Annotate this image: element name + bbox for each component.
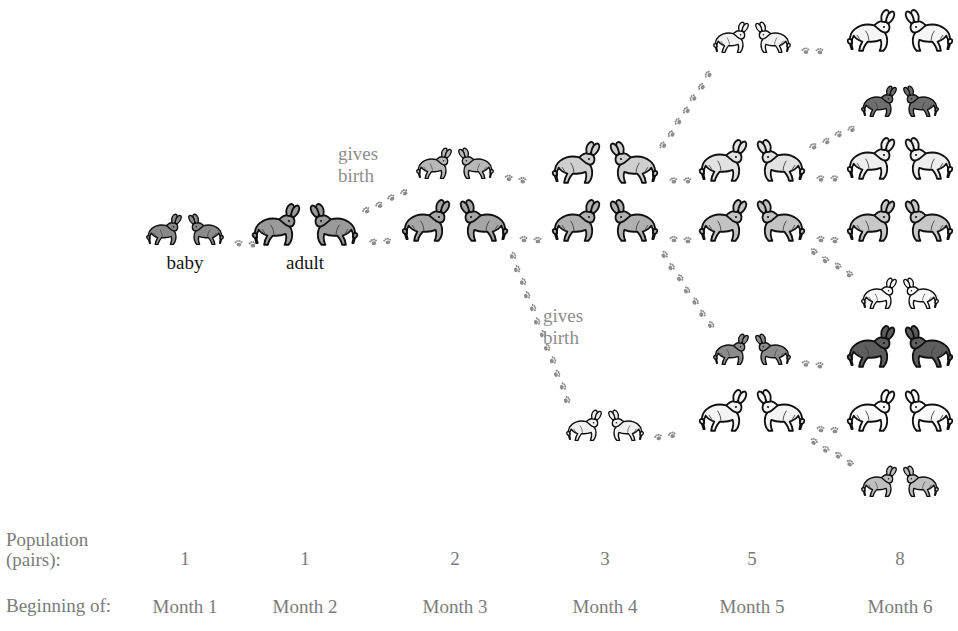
rabbit-left — [414, 146, 454, 186]
rabbit-left — [844, 197, 898, 251]
rabbit-left — [249, 201, 303, 255]
rabbit-right — [307, 201, 361, 255]
rabbit-right — [754, 137, 808, 191]
month-label-1: Month 1 — [125, 596, 245, 618]
growth-trail — [812, 235, 840, 245]
growth-trail — [364, 235, 395, 249]
population-axis-label: Population (pairs): — [6, 530, 88, 570]
rabbit-right — [902, 7, 956, 61]
rabbit-pair-baby — [859, 464, 941, 504]
growth-trail — [812, 425, 840, 435]
rabbit-left — [844, 7, 898, 61]
month-label-6: Month 6 — [840, 596, 958, 618]
rabbit-left — [844, 135, 898, 189]
rabbit-left — [564, 408, 604, 448]
rabbit-pair-adult — [844, 197, 956, 251]
population-axis-line1: Population — [6, 530, 88, 550]
growth-trail — [797, 359, 841, 371]
rabbit-pair-adult — [844, 135, 956, 189]
growth-trail — [812, 173, 841, 185]
rabbit-right — [902, 323, 956, 377]
rabbit-left — [859, 276, 899, 316]
gives-birth-line2: birth — [543, 327, 583, 349]
baby-tag: baby — [125, 252, 245, 274]
rabbit-left — [844, 387, 898, 441]
month-label-2: Month 2 — [245, 596, 365, 618]
rabbit-right — [902, 387, 956, 441]
rabbit-pair-baby — [711, 20, 793, 60]
rabbit-right — [186, 212, 226, 252]
rabbit-right — [901, 464, 941, 504]
rabbit-pair-adult — [844, 323, 956, 377]
rabbit-pair-adult — [696, 197, 808, 251]
beginning-of-axis-label: Beginning of: — [6, 596, 111, 616]
rabbit-pair-adult — [249, 201, 361, 255]
rabbit-right — [753, 20, 793, 60]
gives-birth-line2: birth — [338, 165, 378, 187]
rabbit-right — [753, 332, 793, 372]
adult-tag: adult — [245, 252, 365, 274]
rabbit-pair-baby — [564, 408, 646, 448]
rabbit-right — [607, 139, 661, 193]
rabbit-pair-adult — [549, 139, 661, 193]
growth-trail — [515, 235, 545, 245]
growth-trail — [500, 173, 546, 187]
rabbit-pair-baby — [144, 212, 226, 252]
rabbit-right — [456, 146, 496, 186]
population-value-month-5: 5 — [692, 548, 812, 570]
rabbit-left — [144, 212, 184, 252]
rabbit-right — [457, 197, 511, 251]
growth-trail — [649, 425, 693, 445]
population-value-month-2: 1 — [245, 548, 365, 570]
population-value-month-4: 3 — [545, 548, 665, 570]
month-label-3: Month 3 — [395, 596, 515, 618]
rabbit-pair-baby — [859, 84, 941, 124]
rabbit-pair-adult — [696, 387, 808, 441]
growth-trail — [230, 239, 245, 249]
rabbit-left — [711, 20, 751, 60]
rabbit-left — [859, 84, 899, 124]
rabbit-left — [859, 464, 899, 504]
rabbit-right — [606, 408, 646, 448]
population-value-month-3: 2 — [395, 548, 515, 570]
rabbit-right — [754, 387, 808, 441]
rabbit-left — [696, 387, 750, 441]
rabbit-left — [844, 323, 898, 377]
rabbit-right — [754, 197, 808, 251]
rabbit-left — [549, 139, 603, 193]
rabbit-right — [607, 197, 661, 251]
rabbit-left — [549, 197, 603, 251]
rabbit-pair-baby — [711, 332, 793, 372]
birth-trail — [655, 246, 725, 345]
growth-trail — [665, 235, 692, 245]
rabbit-right — [901, 84, 941, 124]
gives-birth-line1: gives — [338, 143, 378, 165]
rabbit-pair-baby — [414, 146, 496, 186]
rabbit-pair-baby — [859, 276, 941, 316]
rabbit-left — [399, 197, 453, 251]
population-axis-line2: (pairs): — [6, 550, 88, 570]
rabbit-right — [902, 135, 956, 189]
rabbit-pair-adult — [844, 7, 956, 61]
month-label-5: Month 5 — [692, 596, 812, 618]
rabbit-pair-adult — [844, 387, 956, 441]
population-value-month-1: 1 — [125, 548, 245, 570]
rabbit-right — [901, 276, 941, 316]
gives-birth-label-2: gives birth — [543, 305, 583, 349]
rabbit-left — [696, 197, 750, 251]
month-label-4: Month 4 — [545, 596, 665, 618]
rabbit-pair-adult — [696, 137, 808, 191]
rabbit-pair-adult — [549, 197, 661, 251]
rabbit-left — [696, 137, 750, 191]
gives-birth-label-1: gives birth — [338, 143, 378, 187]
population-value-month-6: 8 — [840, 548, 958, 570]
growth-trail — [797, 45, 840, 57]
rabbit-right — [902, 197, 956, 251]
rabbit-pair-adult — [399, 197, 511, 251]
rabbit-left — [711, 332, 751, 372]
gives-birth-line1: gives — [543, 305, 583, 327]
growth-trail — [665, 175, 693, 187]
